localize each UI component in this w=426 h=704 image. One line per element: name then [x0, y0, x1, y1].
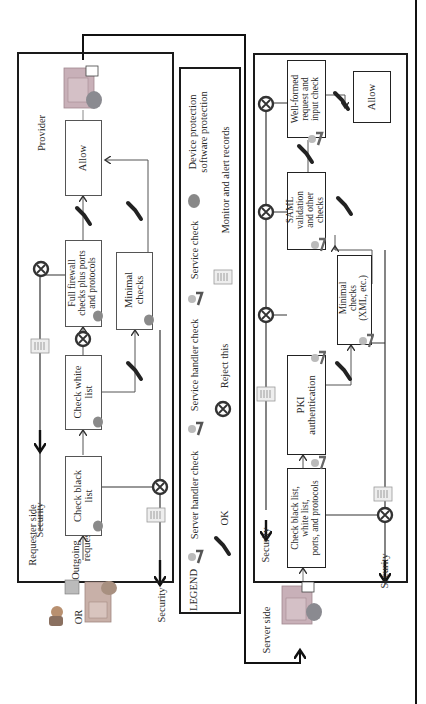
reject-icon: [32, 260, 50, 278]
server-side-label: Server side: [261, 607, 272, 654]
server-handler-icon: [186, 548, 204, 566]
monitor-records-icon: [255, 385, 277, 403]
full-firewall-label: Full firewall checks plus ports and prot…: [68, 250, 98, 315]
provider-server-icon: [60, 64, 104, 112]
service-handler-icon: [310, 455, 326, 471]
monitor-records-icon: [372, 485, 394, 503]
monitor-records-icon: [29, 337, 51, 355]
legend-service-check-label: Service check: [189, 221, 200, 280]
check-black-list-label: Check black list: [72, 470, 94, 522]
server-frame: [253, 53, 408, 583]
legend-monitor-label: Monitor and alert records: [220, 126, 231, 233]
provider-label: Provider: [36, 115, 47, 151]
ok-check-icon: [213, 535, 233, 557]
service-handler-icon: [310, 237, 326, 253]
ok-check-icon: [332, 90, 352, 112]
service-handler-icon: [186, 420, 204, 438]
check-white-list-label: Check white list: [72, 366, 94, 419]
security-label-top: Security: [34, 503, 45, 538]
service-handler-icon: [310, 350, 326, 366]
legend-title: LEGEND: [188, 569, 199, 611]
ok-check-icon: [334, 360, 354, 382]
device-protection-icon: [92, 518, 104, 530]
reject-icon: [257, 203, 275, 221]
reject-icon: [151, 478, 169, 496]
ok-check-icon: [74, 205, 94, 227]
server-security-label-top: Security: [260, 528, 271, 563]
well-formed-label: Well-formed request and input check: [291, 75, 321, 123]
security-label-bottom: Security: [156, 588, 167, 623]
device-protection-icon: [143, 312, 155, 324]
monitor-records-icon: [212, 268, 234, 286]
legend-ok-label: OK: [219, 510, 230, 525]
allow-server-label: Allow: [366, 84, 377, 110]
saml-validation-label: SAML validation and other checks: [286, 191, 326, 229]
reject-icon: [376, 506, 394, 524]
service-check-icon: [306, 130, 324, 148]
legend-reject-label: Reject this: [219, 344, 230, 389]
reject-icon: [257, 95, 275, 113]
legend-device-protection-label: Device protection software protection: [187, 91, 209, 172]
ok-check-icon: [335, 195, 355, 217]
server-security-label-bottom: Security: [379, 554, 390, 589]
allow-label: Allow: [77, 145, 88, 171]
reject-icon: [257, 306, 275, 324]
incoming-server-icon: [278, 580, 324, 628]
ok-check-icon: [125, 200, 145, 222]
pki-auth-label: PKI authentication: [295, 375, 317, 434]
user-computer-icon: [43, 578, 83, 628]
reject-icon: [214, 400, 232, 418]
check-lists-ports-label: Check black list, white list, ports, and…: [291, 480, 321, 555]
device-protection-icon: [186, 192, 202, 210]
service-check-icon: [186, 290, 204, 308]
monitor-records-icon: [145, 506, 167, 524]
ok-check-icon: [125, 360, 145, 382]
legend-server-handler-label: Server handler check: [189, 451, 200, 540]
requester-server-icon: [82, 578, 120, 626]
minimal-checks-xml-label: Minimal checks (XML, etc.): [339, 275, 369, 321]
service-handler-icon: [358, 333, 374, 349]
reject-icon: [74, 330, 92, 348]
device-protection-icon: [92, 308, 104, 320]
device-protection-icon: [92, 414, 104, 426]
legend-service-handler-label: Service handler check: [189, 319, 200, 412]
minimal-checks-label: Minimal checks: [123, 272, 145, 308]
